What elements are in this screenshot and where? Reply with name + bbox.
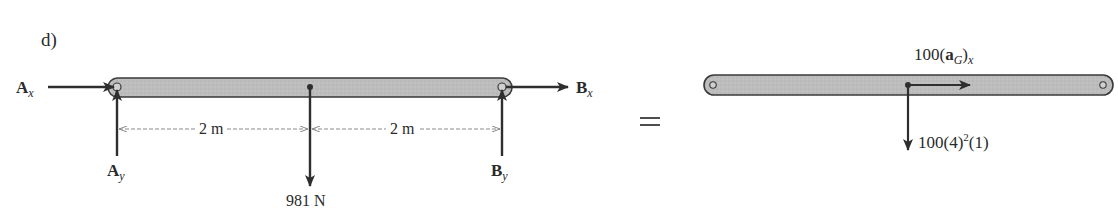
equals-sign-icon bbox=[640, 118, 660, 125]
free-body-diagram bbox=[48, 78, 568, 186]
pin-a-icon bbox=[113, 83, 121, 91]
tangential-inertia-label: 100(aG)x bbox=[914, 46, 973, 63]
pin-left-icon bbox=[710, 82, 716, 88]
force-ay-label: Ay bbox=[107, 162, 125, 179]
pin-b-icon bbox=[498, 83, 506, 91]
dimension-right-label: 2 m bbox=[386, 121, 418, 137]
diagram-canvas bbox=[0, 0, 1118, 220]
force-bx-label: Bx bbox=[576, 79, 593, 96]
force-ax-label: Ax bbox=[16, 79, 34, 96]
force-by-label: By bbox=[491, 162, 508, 179]
kinetic-diagram bbox=[704, 75, 1113, 150]
pin-right-icon bbox=[1100, 82, 1106, 88]
normal-inertia-label: 100(4)2(1) bbox=[918, 134, 989, 151]
dimension-left-label: 2 m bbox=[195, 121, 227, 137]
weight-label: 981 N bbox=[286, 193, 326, 209]
part-label: d) bbox=[41, 30, 57, 49]
